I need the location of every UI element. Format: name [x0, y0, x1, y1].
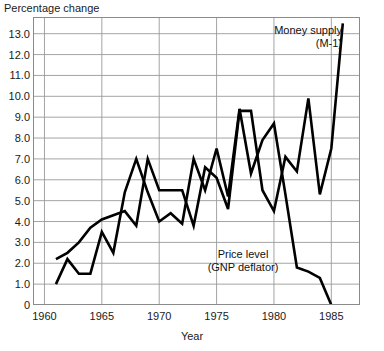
series-annotation-money-supply-line1: Money supply: [232, 24, 342, 37]
series-annotation-money-supply: Money supply (M-1): [232, 24, 342, 50]
series-annotation-money-supply-line2: (M-1): [232, 37, 342, 50]
series-annotation-price-level: Price level (GNP deflator): [178, 248, 308, 274]
horizontal-gridlines: [33, 34, 360, 284]
series-line-money-supply: [56, 23, 343, 259]
x-axis-tick-label: 1970: [147, 310, 171, 322]
x-axis-tick-label: 1965: [90, 310, 114, 322]
x-axis-tick-label: 1985: [319, 310, 343, 322]
series-annotation-price-level-line1: Price level: [178, 248, 308, 261]
x-axis-title: Year: [0, 330, 384, 342]
chart-page: Percentage change 01.02.03.04.05.06.07.0…: [0, 0, 384, 351]
x-axis-tick-label: 1980: [262, 310, 286, 322]
x-axis-tick-label: 1960: [32, 310, 56, 322]
x-axis-tick-label: 1975: [204, 310, 228, 322]
series-annotation-price-level-line2: (GNP deflator): [178, 261, 308, 274]
